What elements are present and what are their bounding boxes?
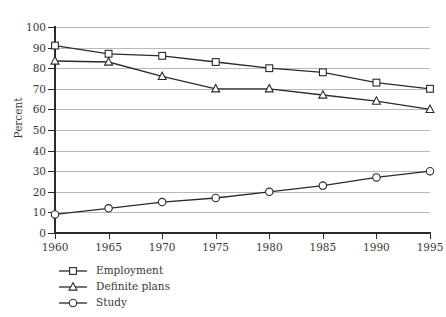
square-marker-icon <box>105 50 112 57</box>
circle-marker-icon <box>51 211 58 218</box>
square-marker-icon <box>159 52 166 59</box>
square-marker-icon <box>427 85 434 92</box>
circle-marker-icon <box>373 174 380 181</box>
circle-marker-icon <box>105 205 112 212</box>
circle-marker-icon <box>266 188 273 195</box>
chart-figure: 0102030405060708090100 Percent 196019651… <box>0 0 446 317</box>
series-study <box>51 168 433 219</box>
circle-marker-icon <box>426 168 433 175</box>
square-marker-icon <box>319 69 326 76</box>
square-marker-icon <box>373 79 380 86</box>
legend-item-label: Study <box>96 296 127 308</box>
legend: EmploymentDefinite plansStudy <box>58 262 170 310</box>
circle-marker-icon <box>212 194 219 201</box>
series-employment <box>52 42 434 92</box>
square-marker-icon <box>58 263 88 277</box>
square-marker-icon <box>52 42 59 49</box>
triangle-marker-icon <box>58 279 88 293</box>
legend-item[interactable]: Employment <box>58 262 170 278</box>
legend-item[interactable]: Definite plans <box>58 278 170 294</box>
square-marker-icon <box>70 268 77 275</box>
circle-marker-icon <box>158 198 165 205</box>
legend-item-label: Employment <box>96 264 163 276</box>
square-marker-icon <box>212 59 219 66</box>
square-marker-icon <box>266 65 273 72</box>
circle-marker-icon <box>69 299 76 306</box>
legend-item-label: Definite plans <box>96 280 170 292</box>
circle-marker-icon <box>58 295 88 309</box>
legend-item[interactable]: Study <box>58 294 170 310</box>
triangle-marker-icon <box>51 57 59 64</box>
circle-marker-icon <box>319 182 326 189</box>
